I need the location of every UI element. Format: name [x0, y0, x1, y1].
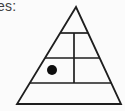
pyramid-outline [17, 7, 121, 104]
pyramid-diagram [0, 0, 125, 111]
dot-marker [47, 65, 57, 75]
screen: es: [0, 0, 125, 111]
